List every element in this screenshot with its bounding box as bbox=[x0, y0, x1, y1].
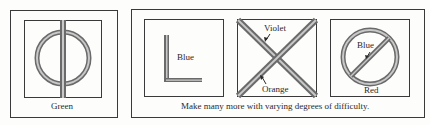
circle-with-vertical-line-figure bbox=[37, 20, 89, 98]
caption: Make many more with varying degrees of d… bbox=[181, 101, 369, 111]
violet-label: Violet bbox=[264, 23, 286, 33]
red-label: Red bbox=[364, 85, 379, 95]
blue-label-l-shape: Blue bbox=[177, 52, 194, 62]
orange-label: Orange bbox=[262, 84, 289, 94]
green-label: Green bbox=[51, 101, 73, 111]
blue-label-circle: Blue bbox=[357, 40, 374, 50]
circle-with-diagonal-figure bbox=[343, 30, 397, 84]
